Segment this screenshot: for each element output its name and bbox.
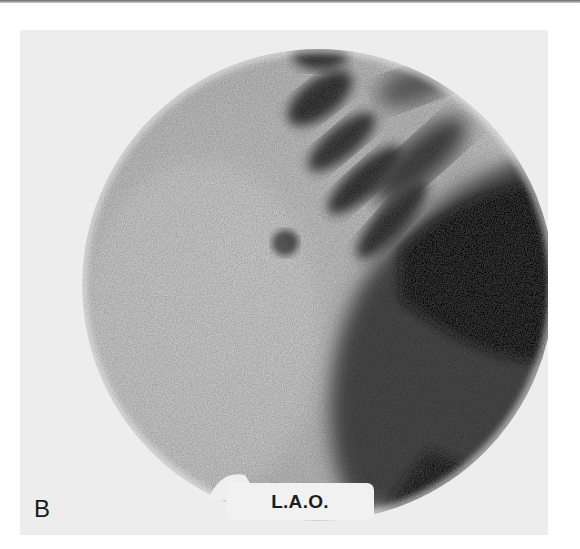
top-rule — [0, 0, 580, 3]
scintigraphy-image-panel: B L.A.O. — [20, 30, 548, 535]
panel-letter: B — [34, 495, 50, 523]
view-orientation-label: L.A.O. — [226, 483, 374, 520]
nuclear-scan-image — [20, 30, 548, 535]
